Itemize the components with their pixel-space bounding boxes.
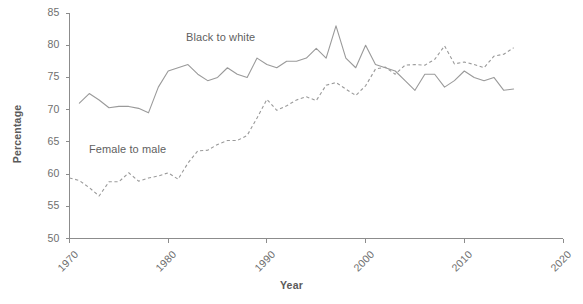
y-tick-label: 65: [30, 135, 60, 147]
y-tick-label: 85: [30, 6, 60, 18]
x-axis-ticks: [70, 239, 564, 243]
y-tick-label: 80: [30, 38, 60, 50]
y-tick-label: 60: [30, 167, 60, 179]
series-annotation-female-to-male: Female to male: [89, 143, 166, 155]
series-annotation-black-to-white: Black to white: [186, 31, 255, 43]
y-tick-label: 75: [30, 70, 60, 82]
series-group: [70, 26, 514, 196]
x-axis-title: Year: [0, 279, 583, 291]
axes-group: [66, 13, 564, 243]
chart-plot-area: [0, 0, 583, 304]
y-tick-label: 70: [30, 103, 60, 115]
y-tick-label: 50: [30, 232, 60, 244]
series-line-female-to-male: [70, 46, 514, 196]
chart-container: Percentage Year 5055606570758085 1970198…: [0, 0, 583, 304]
y-axis-title: Percentage: [11, 94, 23, 174]
y-tick-label: 55: [30, 199, 60, 211]
y-axis-ticks: [66, 13, 70, 239]
